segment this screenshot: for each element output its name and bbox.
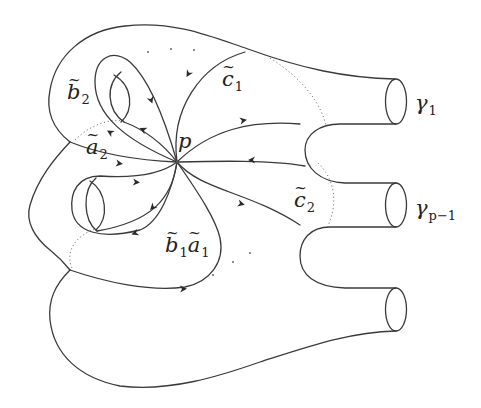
tube-1-bottom [305,124,396,183]
label-c1: ~c1 [222,69,243,93]
base-point [176,161,179,164]
hidden-a1-arc [70,229,95,268]
boundary-gamma-last [386,288,407,331]
label-a2: ~a2 [86,137,108,161]
loop-c1-return [177,123,300,162]
loop-a2 [124,122,177,162]
handle-1-hole-right [90,181,104,230]
label-c2: ~c2 [294,190,315,214]
loop-c2-return [177,162,300,225]
boundary-gamma-p-1 [386,183,407,227]
label-b2: ~b2 [67,82,90,106]
hidden-c1-arc [270,58,326,126]
hidden-c2-arc [318,163,334,228]
handle-2-hole-left [110,72,124,122]
loop-b1 [72,162,177,234]
surface-outline-left-upper [29,142,70,270]
tube-2-bottom [300,227,396,288]
label-gamma-1: γ1 [415,93,437,117]
label-b1-a1: ~b1~a1 [165,235,210,259]
loop-c2 [177,161,305,166]
loop-a1 [97,162,177,231]
surface-diagram [0,0,481,408]
boundary-gamma-1 [386,79,407,124]
label-gamma-p-1: γp−1 [415,198,456,222]
label-p: p [178,131,191,152]
